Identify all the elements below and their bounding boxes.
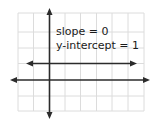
slope-label: slope = 0: [56, 25, 108, 38]
x-axis-left-arrow-icon: [10, 77, 17, 83]
x-axis-right-arrow-icon: [143, 77, 150, 83]
y-axis-up-arrow-icon: [47, 8, 53, 15]
line-left-arrow-icon: [26, 61, 33, 67]
plotted-line-y-equals-1: [26, 61, 137, 67]
coordinate-plane: [0, 0, 155, 123]
y-intercept-label: y-intercept = 1: [56, 39, 139, 52]
y-axis-down-arrow-icon: [47, 112, 53, 119]
line-right-arrow-icon: [130, 61, 137, 67]
